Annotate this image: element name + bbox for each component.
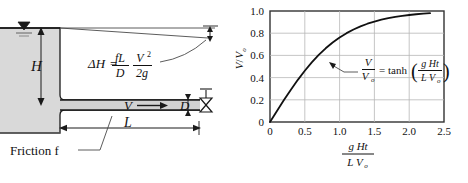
x-axis-label: g Ht L V o [342, 140, 374, 170]
head-loss-equation: ΔH = fL D V 2 2g [87, 50, 152, 80]
figure-root: H V D [0, 0, 468, 183]
velocity-ratio-chart: 00.51.01.52.02.5 00.20.40.60.81.0 V V o … [234, 0, 468, 183]
x-tick-label: 2.0 [402, 125, 416, 137]
x-axis-label-numerator: g Ht [348, 140, 368, 152]
equation-leader-line [160, 40, 206, 62]
y-tick-label: 0.6 [250, 49, 264, 61]
x-tick-label: 1.5 [368, 125, 382, 137]
left-diagram-svg: H V D [0, 0, 234, 183]
y-tick-label: 0.8 [250, 27, 264, 39]
y-tick-label: 0 [259, 116, 265, 128]
x-tick-label: 0 [267, 125, 273, 137]
x-tick-label: 0.5 [298, 125, 312, 137]
annotation-arg-numerator: g Ht [421, 58, 439, 69]
friction-leader-line [78, 116, 112, 150]
length-label: L [123, 115, 132, 130]
friction-label: Friction f [10, 143, 59, 158]
annotation-arg-denominator: L V [420, 72, 437, 83]
x-axis-label-denominator-sub: o [364, 162, 368, 170]
chart-svg: 00.51.01.52.02.5 00.20.40.60.81.0 V V o … [234, 0, 468, 183]
energy-grade-line [60, 28, 208, 38]
head-loss-numerator-2: V [136, 51, 145, 65]
x-tick-layer: 00.51.01.52.02.5 [267, 125, 451, 137]
water-body-fill [0, 28, 200, 133]
head-loss-symbol: ΔH [87, 56, 106, 71]
head-loss-denominator-1: D [115, 66, 125, 80]
x-tick-label: 1.0 [333, 125, 347, 137]
head-loss-numerator-1: fL [115, 51, 125, 65]
annotation-paren-open: ( [411, 60, 418, 83]
x-tick-label: 2.5 [437, 125, 451, 137]
y-tick-label: 0.4 [250, 72, 264, 84]
y-axis-label: V / V o [233, 48, 248, 70]
diameter-label: D [179, 98, 190, 113]
annotation-arg-denominator-sub: o [437, 77, 441, 85]
reservoir-pipe-diagram: H V D [0, 0, 234, 183]
annotation-paren-close: ) [443, 60, 450, 83]
annotation-function: tanh [388, 64, 407, 76]
head-loss-numerator-2-exponent: 2 [147, 50, 151, 59]
head-loss-denominator-2: 2g [136, 66, 148, 80]
y-axis-label-denominator-sub: o [240, 48, 248, 52]
valve-icon [200, 89, 212, 112]
head-label: H [30, 58, 43, 74]
y-tick-layer: 00.20.40.60.81.0 [250, 5, 264, 128]
y-tick-label: 1.0 [250, 5, 264, 17]
annotation-lhs-denominator-sub: o [371, 76, 375, 84]
annotation-equals: = [379, 64, 385, 76]
y-tick-label: 0.2 [250, 94, 264, 106]
x-axis-label-denominator: L V [346, 156, 364, 168]
